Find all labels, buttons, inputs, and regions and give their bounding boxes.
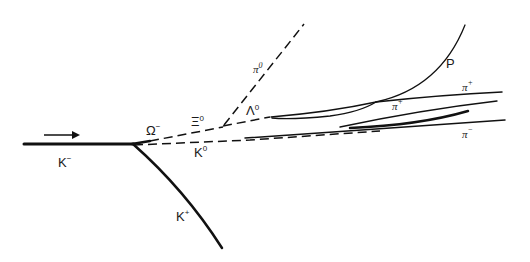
label-xi-zero: Ξ0 <box>191 114 204 129</box>
label-k-zero: K0 <box>194 144 208 160</box>
label-k-minus: K− <box>58 154 72 170</box>
track-lambda-decay-lower <box>272 102 376 119</box>
label-k-plus: K+ <box>176 208 190 224</box>
label-pi-plus-2: π+ <box>392 97 403 112</box>
beam-direction-arrow <box>44 131 80 139</box>
label-pi-minus: π− <box>462 125 473 140</box>
track-omega-minus <box>132 141 150 144</box>
track-xi-zero <box>150 127 223 141</box>
track-proton <box>271 25 465 117</box>
label-omega-minus: Ω− <box>146 122 161 138</box>
label-pi-plus-1: π+ <box>462 78 473 93</box>
label-proton: P <box>446 56 455 71</box>
track-k-zero <box>134 131 380 145</box>
particle-tracks-diagram: K− K+ K0 Ω− Ξ0 Λ0 π0 P π+ π+ π− <box>0 0 530 262</box>
track-pi-zero <box>224 24 304 125</box>
label-pi-zero: π0 <box>253 61 263 75</box>
track-k-plus <box>133 144 222 248</box>
label-lambda-zero: Λ0 <box>246 103 260 118</box>
